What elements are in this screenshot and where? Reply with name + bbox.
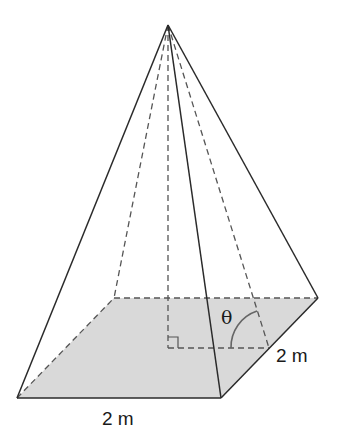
pyramid-diagram: θ 2 m 2 m <box>0 0 341 438</box>
lateral-edge-back-right <box>168 25 318 298</box>
base-side-length-label: 2 m <box>276 345 308 366</box>
base-front-length-label: 2 m <box>102 408 134 429</box>
angle-label: θ <box>221 306 232 328</box>
hidden-lateral-edge-back-left <box>114 25 168 298</box>
